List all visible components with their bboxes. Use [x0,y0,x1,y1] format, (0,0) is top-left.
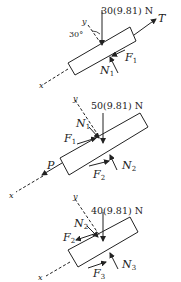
normal-arrow-n1-b [89,127,99,138]
angle-label: 30° [69,31,83,39]
x-axis-label-1: x [39,82,44,90]
f2-label-c: F2 [63,232,75,245]
normal-arrow-n2-b [110,155,117,170]
x-axis-label-2: x [9,192,14,200]
tension-arrow [134,19,156,35]
f1-label-b: F1 [64,133,76,146]
weight-label-2: 50(9.81) N [91,101,143,111]
weight-label-1: 30(9.81) N [101,6,153,16]
weight-label-3: 40(9.81) N [91,206,143,216]
normal-arrow-n3 [110,253,118,269]
tension-label: T [158,13,165,24]
n2-label-c: N2 [74,218,88,231]
y-axis-1 [88,25,102,45]
friction-arrow-f2-b [89,161,109,166]
p-label: P [47,160,54,171]
diagram-2 [16,100,148,192]
free-body-diagrams: 30(9.81) N T y 30° F1 N1 x y 50(9.81) N … [0,0,181,282]
n3-label: N3 [122,259,136,272]
n1-label-a: N1 [100,65,114,78]
angle-arc-1 [92,31,100,34]
x-axis-3 [46,262,70,276]
y-axis-label-3: y [73,193,78,201]
n2-label-b: N2 [122,160,136,173]
y-axis-label-2: y [73,95,78,103]
f1-label-a: F1 [125,52,137,65]
f3-label: F3 [93,268,105,281]
y-axis-label-1: y [82,18,87,26]
diagram-graphics [0,0,181,282]
n1-label-b: N1 [76,118,90,131]
x-axis-1 [44,69,68,84]
x-axis-2 [16,176,43,192]
x-axis-label-3: x [38,274,43,282]
f2-label-b: F2 [93,169,105,182]
